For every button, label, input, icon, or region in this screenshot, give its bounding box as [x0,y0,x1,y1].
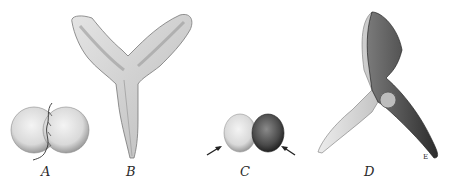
illustration-plate: E [0,0,459,188]
figure-c [207,114,295,155]
label-b: B [126,164,136,179]
engraver-signature: E [423,153,428,161]
figure-a [11,103,89,160]
label-c: C [240,164,250,179]
label-a: A [41,164,50,179]
figure-b [72,14,192,158]
label-d: D [364,164,374,179]
figure-d [318,12,438,158]
